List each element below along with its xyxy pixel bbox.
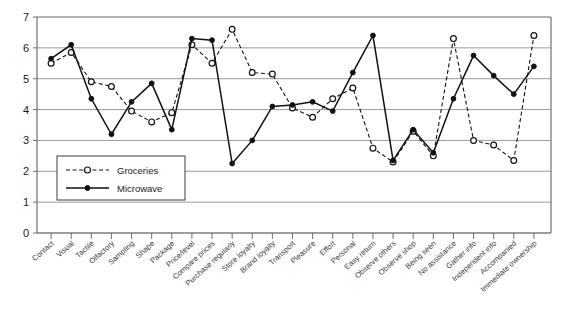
data-point: [250, 138, 255, 143]
y-axis-tick-label: 2: [23, 165, 29, 177]
data-point: [129, 99, 134, 104]
y-axis-tick-label: 5: [23, 73, 29, 85]
data-point: [69, 42, 74, 47]
data-point: [109, 84, 115, 90]
legend-label: Groceries: [117, 165, 158, 176]
data-point: [491, 142, 497, 148]
y-axis-tick-label: 0: [23, 227, 29, 239]
line-chart: 01234567 ContactVisualTactileOlfactorySa…: [0, 0, 564, 317]
data-point: [229, 26, 235, 32]
legend-label: Microwave: [117, 183, 162, 194]
y-axis-tick-label: 3: [23, 134, 29, 146]
y-axis-tick-label: 4: [23, 104, 29, 116]
data-point: [451, 96, 456, 101]
data-point: [491, 73, 496, 78]
chart-container: 01234567 ContactVisualTactileOlfactorySa…: [0, 0, 564, 317]
y-axis-tick-label: 7: [23, 11, 29, 23]
data-point: [249, 70, 255, 76]
data-point: [370, 145, 376, 151]
data-point: [350, 70, 355, 75]
legend-marker: [85, 167, 91, 173]
data-point: [511, 92, 516, 97]
data-point: [169, 127, 174, 132]
y-axis-tick-label: 1: [23, 196, 29, 208]
data-point: [531, 33, 537, 39]
data-point: [89, 96, 94, 101]
data-point: [149, 119, 155, 125]
data-point: [290, 103, 295, 108]
data-point: [532, 64, 537, 69]
data-point: [471, 53, 476, 58]
data-point: [451, 36, 457, 42]
data-point: [330, 109, 335, 114]
data-point: [431, 150, 436, 155]
data-point: [511, 158, 517, 164]
data-point: [330, 96, 336, 102]
chart-legend: GroceriesMicrowave: [57, 156, 185, 200]
data-point: [210, 38, 215, 43]
data-point: [391, 158, 396, 163]
legend-marker: [85, 186, 90, 191]
data-point: [411, 127, 416, 132]
y-axis-tick-label: 6: [23, 42, 29, 54]
data-point: [88, 79, 94, 85]
data-point: [109, 132, 114, 137]
data-point: [149, 81, 154, 86]
data-point: [169, 110, 175, 116]
data-point: [230, 161, 235, 166]
data-point: [209, 60, 215, 66]
data-point: [49, 56, 54, 61]
data-point: [129, 108, 135, 114]
data-point: [310, 114, 316, 120]
data-point: [310, 99, 315, 104]
data-point: [269, 71, 275, 77]
data-point: [371, 33, 376, 38]
data-point: [471, 138, 477, 144]
data-point: [270, 104, 275, 109]
data-point: [350, 85, 356, 91]
data-point: [190, 36, 195, 41]
